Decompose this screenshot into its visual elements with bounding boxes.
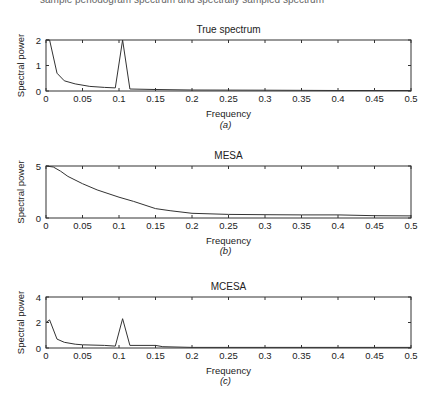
x-tick-label: 0.05 [73,93,92,104]
x-tick-label: 0.1 [112,220,125,231]
x-tick-label: 0.25 [219,220,238,231]
x-tick-label: 0.3 [258,93,271,104]
data-line [46,319,411,348]
x-tick-label: 0.35 [292,220,311,231]
y-axis-label: Spectral power [15,291,26,354]
data-line [46,166,411,216]
x-tick-label: 0.1 [112,93,125,104]
x-tick-label: 0.4 [331,220,344,231]
axes-frame [46,40,411,91]
x-tick-label: 0 [43,93,48,104]
x-tick-label: 0.5 [404,220,417,231]
y-tick-label: 0 [36,343,41,354]
x-tick-label: 0.5 [404,350,417,361]
x-tick-label: 0.05 [73,220,92,231]
x-tick-label: 0.2 [185,350,198,361]
y-tick-label: 2 [36,317,41,328]
y-tick-label: 0 [36,86,41,97]
x-tick-label: 0.3 [258,350,271,361]
x-tick-label: 0.5 [404,93,417,104]
axes-frame [46,297,411,348]
y-axis-label: Spectral power [15,160,26,223]
chart-title: MCESA [211,281,247,292]
x-axis-label: Frequency [206,108,251,119]
y-tick-label: 4 [36,292,41,303]
y-tick-label: 5 [36,161,41,172]
x-tick-label: 0.4 [331,350,344,361]
y-tick-label: 2 [36,35,41,46]
y-tick-label: 0 [36,213,41,224]
x-tick-label: 0.05 [73,350,92,361]
x-tick-label: 0.2 [185,93,198,104]
chart-true-spectrum: True spectrum00.050.10.150.20.250.30.350… [15,24,418,130]
x-tick-label: 0.15 [146,350,165,361]
chart-mcesa: MCESA00.050.10.150.20.250.30.350.40.450.… [15,281,418,386]
x-tick-label: 0.45 [365,350,384,361]
x-tick-label: 0 [43,220,48,231]
figure: True spectrum00.050.10.150.20.250.30.350… [0,0,439,404]
x-tick-label: 0.3 [258,220,271,231]
x-tick-label: 0.25 [219,93,238,104]
x-tick-label: 0.45 [365,93,384,104]
y-tick-label: 1 [36,60,41,71]
x-tick-label: 0.45 [365,220,384,231]
x-tick-label: 0.15 [146,93,165,104]
panel-label: (b) [220,245,232,256]
x-tick-label: 0.4 [331,93,344,104]
x-tick-label: 0.35 [292,350,311,361]
chart-title: True spectrum [196,24,260,35]
x-tick-label: 0 [43,350,48,361]
x-tick-label: 0.15 [146,220,165,231]
panel-label: (c) [220,375,231,386]
x-tick-label: 0.25 [219,350,238,361]
x-tick-label: 0.35 [292,93,311,104]
panel-label: (a) [220,119,232,130]
data-line [46,40,411,91]
x-tick-label: 0.2 [185,220,198,231]
y-axis-label: Spectral power [15,34,26,97]
chart-title: MESA [214,150,243,161]
x-tick-label: 0.1 [112,350,125,361]
axes-frame [46,166,411,218]
chart-mesa: MESA00.050.10.150.20.250.30.350.40.450.5… [15,150,418,256]
